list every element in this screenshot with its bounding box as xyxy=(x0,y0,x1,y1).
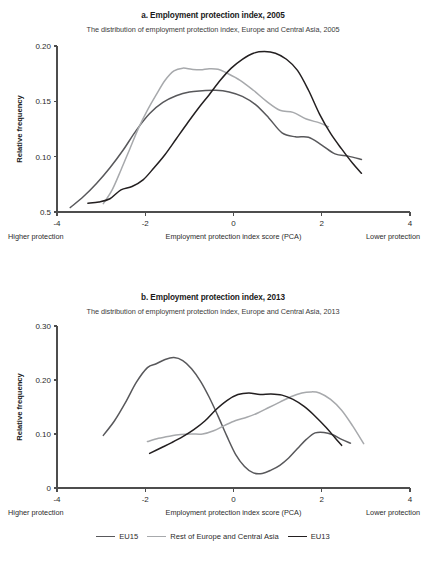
x-tick-label: -4 xyxy=(53,495,61,504)
x-tick-label: -4 xyxy=(53,219,61,228)
legend-label: Rest of Europe and Central Asia xyxy=(170,533,279,541)
x-tick-label: -2 xyxy=(142,495,150,504)
x-axis-title: Employment protection index score (PCA) xyxy=(166,232,302,241)
legend-swatch-icon xyxy=(147,536,166,537)
y-tick-label: 0.20 xyxy=(35,42,51,51)
series-line-eu13 xyxy=(150,393,342,453)
lower-protection-caption: Lower protection xyxy=(366,232,420,241)
panel-a: a. Employment protection index, 2005 The… xyxy=(0,0,426,282)
series-line-eu15 xyxy=(103,358,350,474)
y-tick-label: 0.20 xyxy=(35,376,51,385)
legend-swatch-icon xyxy=(288,536,307,537)
legend-swatch-icon xyxy=(96,536,115,537)
series-line-eu13 xyxy=(88,52,362,204)
lower-protection-caption: Lower protection xyxy=(366,508,420,517)
y-tick-label: 0.30 xyxy=(35,322,51,331)
legend-item-rest-of-europe-and-central-asia[interactable]: Rest of Europe and Central Asia xyxy=(147,533,279,541)
higher-protection-caption: Higher protection xyxy=(8,508,64,517)
panel-a-title: a. Employment protection index, 2005 xyxy=(0,0,426,20)
series-line-rest-of-europe-and-central-asia xyxy=(147,392,363,444)
x-tick-label: 4 xyxy=(408,219,413,228)
x-tick-label: 0 xyxy=(231,219,236,228)
legend-label: EU13 xyxy=(311,533,330,541)
y-axis-title: Relative frequency xyxy=(15,372,24,440)
x-tick-label: 4 xyxy=(408,495,413,504)
panel-b-svg: 00.100.200.30-4-2024Relative frequencyHi… xyxy=(0,316,426,531)
y-tick-label: 0.10 xyxy=(35,430,51,439)
panel-b: b. Employment protection index, 2013 The… xyxy=(0,282,426,540)
legend-item-eu15[interactable]: EU15 xyxy=(96,533,138,541)
x-axis-title: Employment protection index score (PCA) xyxy=(166,508,302,517)
figure-legend: EU15Rest of Europe and Central AsiaEU13 xyxy=(0,533,426,541)
legend-label: EU15 xyxy=(119,533,138,541)
x-tick-label: -2 xyxy=(142,219,150,228)
legend-item-eu13[interactable]: EU13 xyxy=(288,533,330,541)
y-axis-title: Relative frequency xyxy=(15,94,24,162)
y-tick-label: 0 xyxy=(47,484,52,493)
panel-a-subtitle: The distribution of employment protectio… xyxy=(0,20,426,34)
y-tick-label: 0.15 xyxy=(35,97,51,106)
panel-b-plot: 00.100.200.30-4-2024Relative frequencyHi… xyxy=(0,316,426,531)
panel-b-title: b. Employment protection index, 2013 xyxy=(0,282,426,302)
panel-b-subtitle: The distribution of employment protectio… xyxy=(0,302,426,316)
x-tick-label: 2 xyxy=(320,495,325,504)
x-tick-label: 0 xyxy=(231,495,236,504)
series-line-eu15 xyxy=(70,90,361,207)
y-tick-label: 0.5 xyxy=(40,208,52,217)
figure-page: { "figure": { "legend": { "items": [ { "… xyxy=(0,0,426,565)
panel-a-svg: 0.50.100.150.20-4-2024Relative frequency… xyxy=(0,34,426,274)
x-tick-label: 2 xyxy=(320,219,325,228)
panel-a-plot: 0.50.100.150.20-4-2024Relative frequency… xyxy=(0,34,426,274)
y-tick-label: 0.10 xyxy=(35,153,51,162)
higher-protection-caption: Higher protection xyxy=(8,232,64,241)
